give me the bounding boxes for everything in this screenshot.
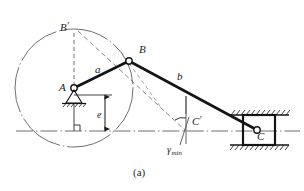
- label-c-prime: C′: [192, 116, 202, 127]
- figure-container: B′ B A a b e C′ γmin C (a): [0, 0, 304, 191]
- label-b-prime: B′: [60, 22, 69, 33]
- label-rod-length: b: [177, 71, 183, 82]
- label-slider-c: C: [257, 131, 264, 142]
- label-b: B: [139, 44, 146, 55]
- mechanism-diagram: [0, 0, 304, 191]
- right-angle-mark: [74, 125, 80, 131]
- label-gamma-min: γmin: [167, 145, 181, 155]
- crank-link-ab: [74, 61, 129, 88]
- alternate-rod-bprime-cprime: [78, 31, 186, 131]
- joint-b-marker: [126, 58, 132, 64]
- gamma-min-arc: [175, 118, 186, 120]
- label-offset-e: e: [97, 110, 101, 120]
- fixed-support-triangle: [66, 90, 82, 103]
- label-a-pivot: A: [59, 82, 66, 93]
- label-crank-length: a: [95, 64, 101, 75]
- figure-caption: (a): [133, 167, 145, 178]
